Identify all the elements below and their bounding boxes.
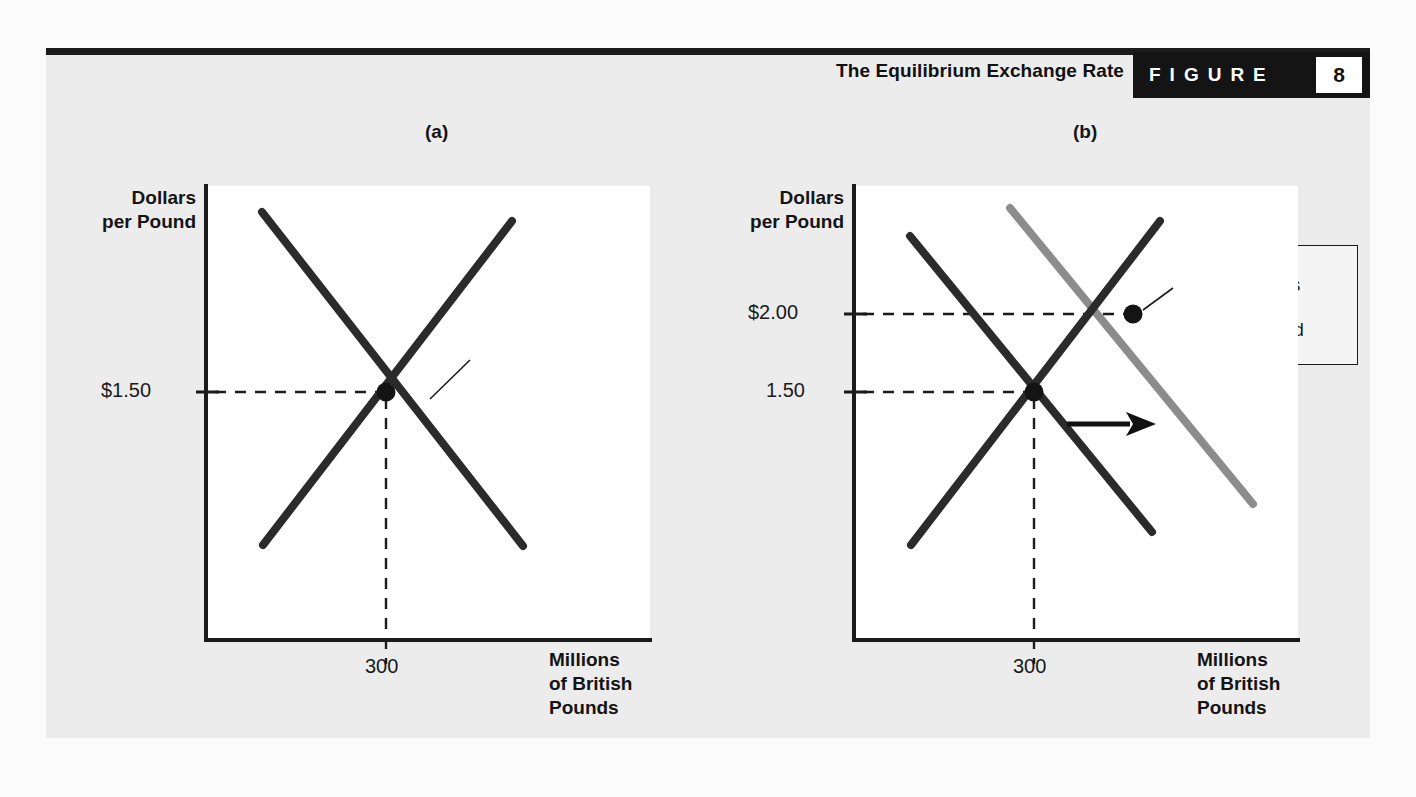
panel-b-x-axis-title-line2: of British: [1197, 672, 1280, 696]
panel-b-x-axis-title-line1: Millions: [1197, 648, 1280, 672]
panel-b-y-axis-title: Dollars per Pound: [726, 186, 844, 234]
panel-b-point-c-label: C: [1105, 278, 1119, 303]
panel-b-x-axis-title-line3: Pounds: [1197, 696, 1280, 720]
panel-b-callout-line2: real GDP leads: [1182, 274, 1348, 296]
panel-b-y-axis-title-line2: per Pound: [726, 210, 844, 234]
panel-a-y-axis-title-line2: per Pound: [78, 210, 196, 234]
panel-a-label: (a): [425, 121, 448, 143]
panel-b-callout: Higher U.S. real GDP leads to a higher p…: [1172, 245, 1358, 365]
panel-a-x-axis-title-line1: Millions: [549, 648, 632, 672]
panel-a-callout-line3: for pounds: [479, 314, 635, 336]
figure-badge: FIGURE 8: [1133, 52, 1370, 98]
panel-b-y-axis-title-line1: Dollars: [726, 186, 844, 210]
panel-b-callout-line4: price per pound: [1182, 319, 1348, 341]
panel-b-label: (b): [1073, 121, 1097, 143]
panel-a-supply-curve-label: S£: [506, 196, 524, 222]
panel-a-demand-curve-label: D£: [525, 532, 548, 558]
panel-a-x-tick-300: 300: [365, 655, 398, 678]
panel-a-x-axis-title-line3: Pounds: [549, 696, 632, 720]
figure-badge-number: 8: [1316, 57, 1362, 93]
panel-a-y-axis-title: Dollars per Pound: [78, 186, 196, 234]
panel-b-supply-curve-label: S£: [1158, 196, 1176, 222]
panel-b-callout-line1: Higher U.S.: [1182, 252, 1348, 274]
figure-title: The Equilibrium Exchange Rate: [836, 60, 1124, 82]
panel-b-demand1-curve-label: D£1: [1152, 525, 1175, 552]
figure-badge-word: FIGURE: [1149, 64, 1275, 86]
panel-b-x-tick-300: 300: [1013, 655, 1046, 678]
panel-b-y-tick-150: 1.50: [766, 379, 805, 402]
panel-a-x-axis-title: Millions of British Pounds: [549, 648, 632, 719]
panel-b-equilibrium-label: E: [1052, 379, 1065, 404]
panel-a-y-axis-title-line1: Dollars: [78, 186, 196, 210]
figure-page: The Equilibrium Exchange Rate FIGURE 8 (…: [0, 0, 1416, 797]
figure-background: [46, 48, 1370, 738]
panel-a-y-tick-150: $1.50: [101, 379, 151, 402]
panel-a-x-axis-title-line2: of British: [549, 672, 632, 696]
panel-b-callout-line3: to a higher: [1182, 297, 1348, 319]
panel-b-x-axis-title: Millions of British Pounds: [1197, 648, 1280, 719]
panel-b-demand2-curve-label: D£2: [1262, 468, 1285, 495]
panel-a-equilibrium-label: E: [404, 379, 417, 404]
panel-a-callout-line1: Equilibrium: [479, 269, 635, 291]
panel-a-callout: Equilibrium in the market for pounds: [469, 262, 645, 360]
panel-a-callout-line2: in the market: [479, 291, 635, 313]
panel-b-y-tick-200: $2.00: [748, 301, 798, 324]
